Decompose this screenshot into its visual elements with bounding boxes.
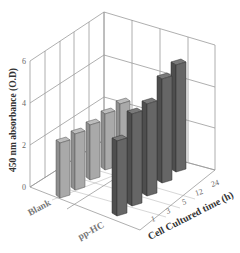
bar-pphc-5h [142,98,157,196]
series-pphc [112,59,186,216]
bar-blank-3h [71,128,85,190]
x-tick-1: 1 [150,214,157,224]
group-label-pphc: pp-HC [76,220,106,242]
bar-pphc-1h [112,135,127,216]
x-axis-label: Cell Cultured time (h) [146,189,236,243]
3d-bar-chart: 0 2 4 6 450 nm absorbance (O.D) Blank pp… [0,0,240,253]
x-tick-3: 3 [165,206,172,216]
bar-blank-1h [56,137,70,198]
x-tick-24: 24 [210,178,220,189]
bar-pphc-12h [157,73,172,183]
bar-blank-5h [86,119,100,180]
y-tick-6: 6 [22,57,26,66]
x-tick-5: 5 [181,197,188,207]
x-tick-12: 12 [194,187,204,198]
bar-pphc-3h [127,108,142,206]
y-tick-4: 4 [22,99,26,108]
group-label-blank: Blank [26,197,53,218]
bar-pphc-24h [171,59,186,172]
y-tick-0: 0 [22,183,26,192]
y-axis-label: 450 nm absorbance (O.D) [8,68,19,172]
y-tick-2: 2 [22,141,26,150]
